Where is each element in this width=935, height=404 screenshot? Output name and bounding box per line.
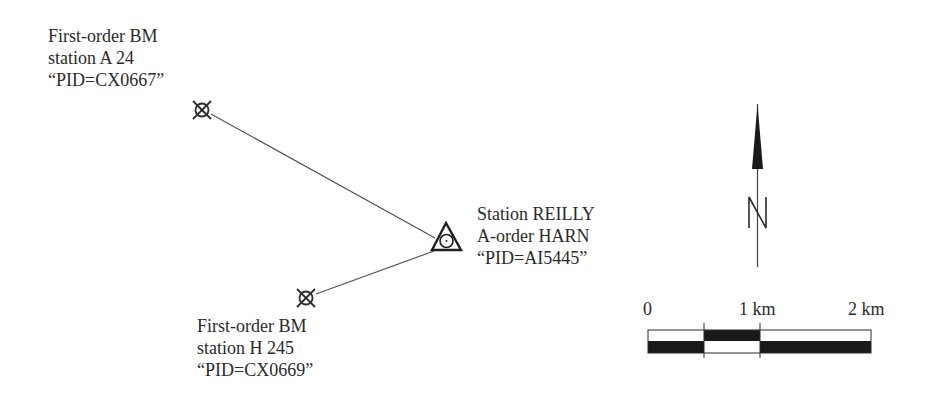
scale-label-2km: 2 km [848,299,885,319]
survey-control-diagram: First-order BM station A 24 “PID=CX0667”… [0,0,935,404]
north-arrow-icon [749,104,766,267]
label-line: A-order HARN [477,225,595,247]
circle-x-benchmark-icon [297,289,315,307]
label-line: station H 245 [197,337,313,359]
scale-bar [648,323,871,358]
label-line: “PID=AI5445” [477,247,595,269]
scale-label-1km: 1 km [739,299,776,319]
triangle-circle-harn-icon [432,223,461,250]
circle-x-benchmark-icon [193,101,211,119]
station-label-bm-a24: First-order BM station A 24 “PID=CX0667” [48,25,164,91]
label-line: First-order BM [48,25,164,47]
station-label-bm-h245: First-order BM station H 245 “PID=CX0669… [197,315,313,381]
label-line: First-order BM [197,315,313,337]
connection-lines [211,114,435,294]
line-h245-to-reilly [316,251,434,294]
label-line: Station REILLY [477,203,595,225]
label-line: “PID=CX0669” [197,359,313,381]
station-label-reilly: Station REILLY A-order HARN “PID=AI5445” [477,203,595,269]
scale-label-0: 0 [643,299,652,319]
label-line: “PID=CX0667” [48,69,164,91]
label-line: station A 24 [48,47,164,69]
line-a24-to-reilly [211,114,435,238]
